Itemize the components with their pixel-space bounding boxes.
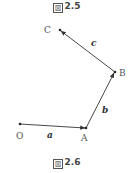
figure-mark-icon: 図 [53,159,63,169]
point-c [59,29,62,32]
point-b [114,71,117,74]
label-o: O [16,131,23,141]
vector-label-b: b [102,105,108,115]
label-b: B [119,68,126,78]
label-a: A [80,133,88,143]
figure-caption-2-6: 図2.6 [0,157,133,169]
vector-a [20,124,85,128]
vector-c [61,31,115,72]
vector-diagram: O A B C a b c [0,0,133,173]
label-c: C [44,25,51,35]
figure-number: 2.6 [65,157,81,167]
vector-b [86,73,114,128]
vector-label-a: a [47,130,53,140]
point-o [19,123,22,126]
point-a [85,127,88,130]
vector-label-c: c [91,38,97,48]
